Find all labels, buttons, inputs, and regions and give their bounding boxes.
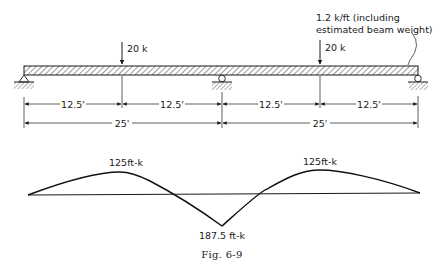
moment-right-peak-label: 125ft-k (303, 156, 337, 167)
moment-curve (28, 170, 420, 226)
dim-segment-3: 12.5' (259, 99, 283, 110)
distributed-load-line2: estimated beam weight) (316, 24, 433, 35)
distributed-load-label: 1.2 k/ft (including estimated beam weigh… (316, 12, 433, 65)
moment-left-peak-label: 125ft-k (109, 157, 143, 168)
moment-diagram: 125ft-k 125ft-k 187.5 ft-k (28, 156, 420, 241)
point-load-2: 20 k (320, 40, 346, 64)
point-load-1: 20 k (122, 42, 148, 64)
dimension-row-1: 12.5' 12.5' 12.5' 12.5' (25, 99, 417, 110)
beam-moment-figure: 1.2 k/ft (including estimated beam weigh… (0, 0, 442, 269)
figure-caption: Fig. 6-9 (201, 249, 242, 260)
moment-baseline (28, 193, 420, 195)
dim-segment-4: 12.5' (357, 99, 381, 110)
pin-support-left (14, 75, 34, 89)
roller-support-middle (212, 75, 232, 90)
roller-support-icon (219, 75, 226, 82)
point-load-1-label: 20 k (127, 43, 148, 54)
roller-support-right (408, 75, 428, 90)
pin-support-icon (19, 75, 29, 82)
roller-support-icon (415, 75, 422, 82)
dim-span-2: 25' (313, 118, 328, 129)
dim-span-1: 25' (115, 118, 130, 129)
leader-line (408, 33, 417, 65)
dimension-row-2: 25' 25' (25, 118, 417, 129)
distributed-load-line1: 1.2 k/ft (including (316, 12, 400, 23)
dim-segment-1: 12.5' (61, 99, 85, 110)
moment-center-label: 187.5 ft-k (199, 230, 246, 241)
point-load-2-label: 20 k (325, 42, 346, 53)
dim-segment-2: 12.5' (160, 99, 184, 110)
beam (24, 66, 418, 75)
